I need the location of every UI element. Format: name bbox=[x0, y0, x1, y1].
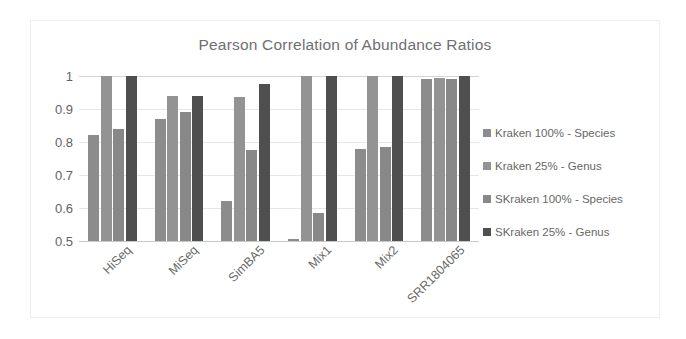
bar-group bbox=[412, 76, 479, 241]
bar[interactable] bbox=[88, 135, 99, 241]
bars-layer bbox=[79, 76, 479, 241]
bar[interactable] bbox=[313, 213, 324, 241]
bar-group bbox=[79, 76, 146, 241]
legend-label: Kraken 25% - Genus bbox=[495, 160, 602, 172]
bar[interactable] bbox=[434, 78, 445, 241]
x-tick-label: HiSeq bbox=[92, 243, 134, 285]
bar[interactable] bbox=[446, 79, 457, 241]
legend-swatch-icon bbox=[483, 195, 491, 203]
bar[interactable] bbox=[246, 150, 257, 241]
bar[interactable] bbox=[380, 147, 391, 241]
bar[interactable] bbox=[180, 112, 191, 241]
gridline bbox=[79, 241, 479, 242]
bar[interactable] bbox=[221, 201, 232, 241]
legend-item[interactable]: Kraken 100% - Species bbox=[483, 116, 655, 149]
legend-item[interactable]: SKraken 25% - Genus bbox=[483, 215, 655, 248]
bar-group bbox=[146, 76, 213, 241]
bar[interactable] bbox=[113, 129, 124, 241]
bar-group bbox=[212, 76, 279, 241]
y-tick-label: 1 bbox=[66, 69, 73, 84]
bar[interactable] bbox=[126, 76, 137, 241]
bar[interactable] bbox=[459, 76, 470, 241]
bar[interactable] bbox=[367, 76, 378, 241]
legend-item[interactable]: Kraken 25% - Genus bbox=[483, 149, 655, 182]
bar[interactable] bbox=[192, 96, 203, 241]
y-tick-label: 0.9 bbox=[55, 102, 73, 117]
bar[interactable] bbox=[355, 149, 366, 241]
legend-label: SKraken 25% - Genus bbox=[495, 226, 609, 238]
bar[interactable] bbox=[326, 76, 337, 241]
chart-frame: Pearson Correlation of Abundance Ratios … bbox=[30, 20, 660, 318]
y-tick-label: 0.8 bbox=[55, 135, 73, 150]
legend-label: SKraken 100% - Species bbox=[495, 193, 623, 205]
legend-label: Kraken 100% - Species bbox=[495, 127, 615, 139]
bar[interactable] bbox=[301, 76, 312, 241]
bar[interactable] bbox=[167, 96, 178, 241]
y-axis: 10.90.80.70.60.5 bbox=[39, 76, 73, 241]
bar-group bbox=[279, 76, 346, 241]
y-tick-label: 0.7 bbox=[55, 168, 73, 183]
plot-area bbox=[79, 76, 479, 241]
bar[interactable] bbox=[155, 119, 166, 241]
bar[interactable] bbox=[421, 79, 432, 241]
y-tick-label: 0.5 bbox=[55, 234, 73, 249]
chart-legend: Kraken 100% - SpeciesKraken 25% - GenusS… bbox=[483, 116, 655, 248]
bar[interactable] bbox=[101, 76, 112, 241]
bar-group bbox=[346, 76, 413, 241]
chart-title: Pearson Correlation of Abundance Ratios bbox=[31, 36, 659, 54]
bar[interactable] bbox=[234, 97, 245, 241]
legend-item[interactable]: SKraken 100% - Species bbox=[483, 182, 655, 215]
bar[interactable] bbox=[259, 84, 270, 241]
x-axis: HiSeqMiSeqSimBA5Mix1Mix2SRR1804065 bbox=[79, 243, 479, 321]
y-tick-label: 0.6 bbox=[55, 201, 73, 216]
legend-swatch-icon bbox=[483, 129, 491, 137]
bar[interactable] bbox=[288, 239, 299, 241]
legend-swatch-icon bbox=[483, 228, 491, 236]
legend-swatch-icon bbox=[483, 162, 491, 170]
bar[interactable] bbox=[392, 76, 403, 241]
